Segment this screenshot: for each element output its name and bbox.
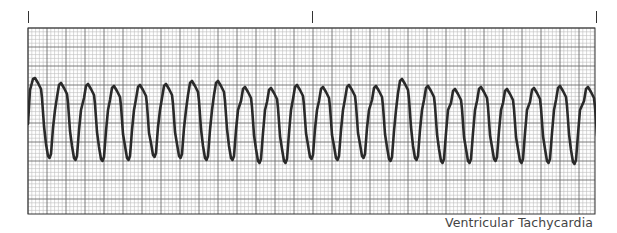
timing-mark bbox=[596, 11, 597, 23]
ecg-grid-border bbox=[28, 28, 595, 214]
ecg-waveform-trace bbox=[28, 78, 604, 164]
ecg-major-gridlines bbox=[28, 28, 595, 214]
ecg-grid bbox=[0, 0, 617, 233]
timing-mark bbox=[28, 11, 29, 23]
timing-mark bbox=[312, 11, 313, 23]
ecg-minor-gridlines bbox=[28, 28, 595, 214]
rhythm-caption: Ventricular Tachycardia bbox=[445, 215, 593, 230]
